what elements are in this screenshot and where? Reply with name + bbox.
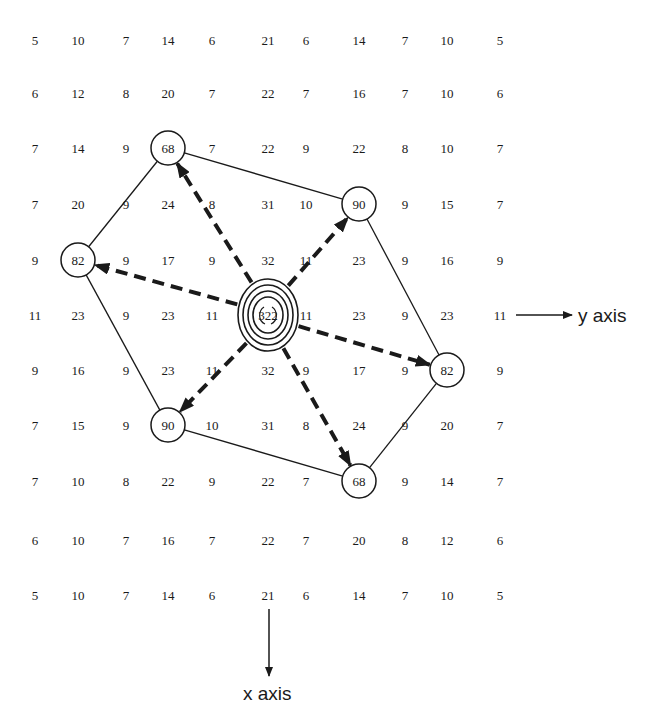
grid-value: 68	[162, 141, 175, 156]
grid-value: 11	[206, 363, 219, 378]
grid-value: 7	[123, 33, 130, 48]
grid-value: 7	[209, 86, 216, 101]
grid-value: 12	[441, 533, 454, 548]
grid-value: 22	[262, 141, 275, 156]
grid-value: 16	[353, 86, 367, 101]
grid-value: 22	[162, 474, 175, 489]
grid-value: 9	[402, 418, 409, 433]
grid-value: 9	[123, 418, 130, 433]
grid-value: 23	[162, 308, 175, 323]
grid-value: 10	[72, 474, 85, 489]
grid-value: 6	[209, 33, 216, 48]
grid-value: 9	[402, 197, 409, 212]
grid-value: 11	[300, 308, 313, 323]
grid-value: 82	[441, 363, 454, 378]
grid-value: 5	[497, 33, 504, 48]
grid-value: 322	[258, 308, 278, 323]
grid-value: 14	[162, 588, 176, 603]
grid-value: 7	[303, 533, 310, 548]
grid-value: 10	[441, 33, 454, 48]
hexagon-edge	[184, 153, 342, 199]
grid-value: 23	[353, 253, 366, 268]
grid-value: 6	[303, 33, 310, 48]
grid-value: 14	[162, 33, 176, 48]
grid-value: 11	[206, 308, 219, 323]
grid-value: 82	[72, 253, 85, 268]
grid-value: 17	[162, 253, 176, 268]
grid-value: 9	[209, 253, 216, 268]
grid-value: 32	[262, 363, 275, 378]
grid-value: 7	[497, 418, 504, 433]
grid-value: 17	[353, 363, 367, 378]
grid-value: 16	[72, 363, 86, 378]
grid-value: 9	[123, 141, 130, 156]
grid-values: 5107146216147105612820722716710671496872…	[29, 33, 507, 603]
hexagon-edge	[184, 430, 342, 476]
grid-value: 9	[402, 474, 409, 489]
grid-value: 31	[262, 418, 275, 433]
grid-value: 7	[32, 197, 39, 212]
grid-value: 23	[441, 308, 454, 323]
grid-value: 8	[123, 474, 130, 489]
grid-value: 24	[353, 418, 367, 433]
grid-value: 7	[497, 141, 504, 156]
grid-value: 7	[32, 474, 39, 489]
grid-value: 6	[209, 588, 216, 603]
grid-value: 9	[209, 474, 216, 489]
grid-value: 21	[262, 33, 275, 48]
grid-value: 90	[162, 418, 175, 433]
grid-value: 22	[262, 474, 275, 489]
grid-value: 16	[162, 533, 176, 548]
grid-value: 9	[402, 363, 409, 378]
grid-value: 7	[402, 86, 409, 101]
grid-value: 9	[497, 363, 504, 378]
grid-value: 9	[402, 253, 409, 268]
grid-value: 16	[441, 253, 455, 268]
grid-value: 7	[303, 86, 310, 101]
grid-value: 31	[262, 197, 275, 212]
grid-value: 22	[262, 86, 275, 101]
grid-value: 7	[123, 533, 130, 548]
grid-value: 23	[162, 363, 175, 378]
grid-value: 7	[303, 474, 310, 489]
grid-value: 8	[402, 533, 409, 548]
grid-value: 9	[123, 197, 130, 212]
grid-value: 22	[353, 141, 366, 156]
grid-value: 7	[497, 197, 504, 212]
grid-value: 7	[209, 141, 216, 156]
grid-value: 8	[402, 141, 409, 156]
grid-value: 11	[29, 308, 42, 323]
dashed-arrow-icon	[95, 265, 237, 304]
dashed-arrow-icon	[299, 326, 430, 365]
grid-value: 32	[262, 253, 275, 268]
grid-value: 7	[209, 533, 216, 548]
y-axis-label: y axis	[578, 305, 627, 326]
grid-value: 10	[72, 588, 85, 603]
grid-value: 9	[303, 363, 310, 378]
grid-value: 9	[303, 141, 310, 156]
grid-value: 10	[441, 588, 454, 603]
grid-value: 7	[497, 474, 504, 489]
grid-value: 10	[300, 197, 313, 212]
grid-value: 10	[72, 533, 85, 548]
grid-value: 20	[162, 86, 175, 101]
grid-value: 9	[497, 253, 504, 268]
grid-value: 11	[300, 253, 313, 268]
grid-value: 10	[72, 33, 85, 48]
grid-value: 7	[402, 588, 409, 603]
grid-value: 8	[209, 197, 216, 212]
grid-value: 6	[303, 588, 310, 603]
grid-value: 23	[353, 308, 366, 323]
grid-value: 6	[497, 533, 504, 548]
grid-value: 7	[402, 33, 409, 48]
grid-value: 5	[497, 588, 504, 603]
x-axis-label: x axis	[243, 683, 292, 704]
grid-value: 14	[353, 588, 367, 603]
grid-value: 11	[494, 308, 507, 323]
grid-value: 14	[441, 474, 455, 489]
hexagon-edge	[86, 275, 160, 410]
grid-value: 23	[72, 308, 85, 323]
grid-value: 10	[441, 141, 454, 156]
grid-value: 21	[262, 588, 275, 603]
grid-value: 9	[123, 363, 130, 378]
